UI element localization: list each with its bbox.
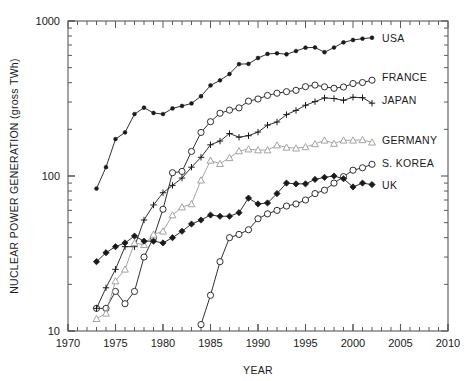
legend-label-germany: GERMANY bbox=[382, 134, 437, 146]
legend-label-france: FRANCE bbox=[382, 71, 427, 83]
x-tick-label: 2000 bbox=[341, 337, 365, 349]
data-point bbox=[247, 62, 251, 66]
data-point bbox=[321, 84, 327, 90]
data-point bbox=[255, 129, 261, 135]
data-point bbox=[207, 292, 213, 298]
data-point bbox=[199, 94, 203, 98]
data-point bbox=[256, 56, 260, 60]
legend-label-japan: JAPAN bbox=[382, 94, 417, 106]
data-point bbox=[245, 195, 251, 201]
data-point bbox=[169, 170, 175, 176]
data-point bbox=[131, 233, 137, 239]
series-line bbox=[97, 176, 373, 262]
data-point bbox=[332, 46, 336, 50]
data-point bbox=[331, 85, 337, 91]
data-point bbox=[217, 160, 224, 166]
data-point bbox=[285, 52, 289, 56]
data-point bbox=[342, 40, 346, 44]
data-point bbox=[133, 112, 137, 116]
data-point bbox=[293, 181, 299, 187]
data-point bbox=[161, 112, 165, 116]
data-point bbox=[293, 201, 299, 207]
data-point bbox=[245, 227, 251, 233]
x-tick-label: 1980 bbox=[151, 337, 175, 349]
data-point bbox=[207, 212, 213, 218]
data-point bbox=[236, 134, 242, 140]
data-point bbox=[217, 213, 223, 219]
data-point bbox=[283, 203, 289, 209]
data-point bbox=[245, 132, 251, 138]
series-line bbox=[97, 97, 373, 308]
data-point bbox=[255, 201, 261, 207]
data-point bbox=[331, 180, 337, 186]
data-point bbox=[207, 157, 214, 163]
data-point bbox=[152, 111, 156, 115]
y-axis-title: NUCLEAR POWER GENERATION (gross TWh) bbox=[8, 58, 20, 294]
data-point bbox=[369, 182, 375, 188]
data-point bbox=[340, 97, 346, 103]
y-tick-label: 1000 bbox=[36, 15, 60, 27]
legend-label-usa: USA bbox=[382, 32, 405, 44]
data-point bbox=[188, 201, 195, 207]
x-tick-label: 1985 bbox=[198, 337, 222, 349]
data-point bbox=[321, 95, 327, 101]
series-uk bbox=[93, 173, 375, 265]
data-point bbox=[323, 50, 327, 54]
data-point bbox=[274, 142, 281, 148]
data-point bbox=[236, 210, 242, 216]
data-point bbox=[350, 94, 356, 100]
data-point bbox=[103, 285, 109, 291]
x-tick-label: 2010 bbox=[436, 337, 460, 349]
data-point bbox=[236, 105, 242, 111]
legend-label-s-korea: S. KOREA bbox=[382, 157, 434, 169]
data-point bbox=[369, 161, 375, 167]
series-layer bbox=[93, 36, 375, 328]
data-point bbox=[369, 77, 375, 83]
data-point bbox=[123, 131, 127, 135]
data-point bbox=[95, 187, 99, 191]
data-point bbox=[359, 180, 365, 186]
data-point bbox=[209, 84, 213, 88]
data-point bbox=[361, 37, 365, 41]
data-point bbox=[321, 137, 328, 143]
data-point bbox=[114, 137, 118, 141]
data-point bbox=[351, 38, 355, 42]
data-point bbox=[321, 174, 327, 180]
data-point bbox=[112, 244, 118, 250]
data-point bbox=[293, 87, 299, 93]
data-point bbox=[331, 95, 337, 101]
data-point bbox=[198, 321, 204, 327]
data-point bbox=[275, 51, 279, 55]
data-point bbox=[160, 240, 166, 246]
series-line bbox=[97, 38, 373, 189]
data-point bbox=[370, 36, 374, 40]
data-point bbox=[122, 240, 128, 246]
data-point bbox=[226, 154, 233, 160]
x-tick-label: 1975 bbox=[103, 337, 127, 349]
data-point bbox=[369, 100, 375, 106]
data-point bbox=[160, 228, 167, 234]
data-point bbox=[312, 190, 318, 196]
data-point bbox=[217, 110, 223, 116]
data-point bbox=[331, 140, 338, 146]
data-point bbox=[198, 177, 205, 183]
data-point bbox=[207, 119, 213, 125]
data-point bbox=[179, 204, 186, 210]
y-tick-label: 10 bbox=[48, 325, 60, 337]
x-tick-label: 1970 bbox=[56, 337, 80, 349]
data-point bbox=[304, 46, 308, 50]
data-point bbox=[122, 266, 129, 272]
data-point bbox=[226, 235, 232, 241]
data-point bbox=[93, 315, 100, 321]
data-point bbox=[340, 84, 346, 90]
data-point bbox=[302, 84, 308, 90]
data-point bbox=[274, 90, 280, 96]
data-point bbox=[266, 52, 270, 56]
data-point bbox=[255, 96, 261, 102]
data-point bbox=[302, 197, 308, 203]
data-point bbox=[331, 173, 337, 179]
data-point bbox=[312, 82, 318, 88]
x-tick-label: 1995 bbox=[293, 337, 317, 349]
data-point bbox=[274, 207, 280, 213]
data-point bbox=[160, 206, 166, 212]
